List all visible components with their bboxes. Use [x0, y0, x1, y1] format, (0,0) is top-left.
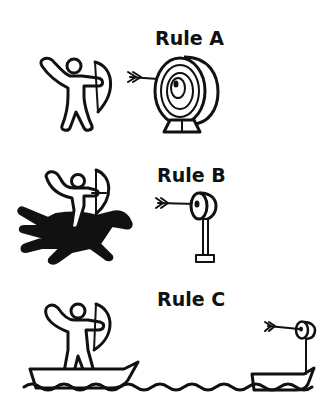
boat-archer-icon	[46, 304, 110, 372]
arrow-c-icon	[265, 322, 299, 331]
archer-a-icon	[41, 58, 111, 130]
horse-rider-icon	[18, 170, 131, 264]
target-a-icon	[155, 57, 218, 132]
target-b-icon	[191, 193, 216, 262]
illustration	[0, 0, 334, 412]
